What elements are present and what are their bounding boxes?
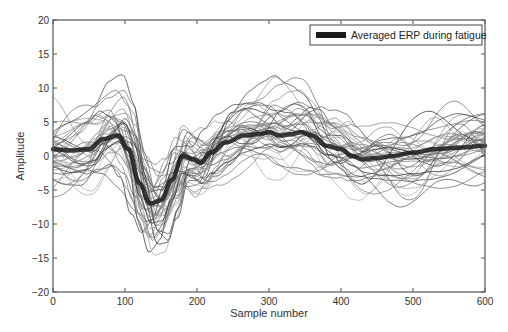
x-tick-label: 500 — [405, 296, 422, 307]
y-tick-label: 10 — [38, 83, 50, 94]
x-axis-label: Sample number — [230, 307, 308, 319]
x-tick-label: 200 — [189, 296, 206, 307]
y-tick-label: 0 — [43, 151, 49, 162]
legend-swatch — [316, 32, 346, 38]
y-tick-label: −15 — [32, 253, 49, 264]
y-tick-label: 5 — [43, 117, 49, 128]
x-tick-label: 400 — [333, 296, 350, 307]
y-tick-label: −5 — [38, 185, 50, 196]
legend: Averaged ERP during fatigue — [310, 25, 487, 45]
legend-label: Averaged ERP during fatigue — [351, 29, 487, 41]
trial-trace — [53, 134, 485, 229]
x-tick-label: 100 — [117, 296, 134, 307]
x-tick-label: 0 — [50, 296, 56, 307]
erp-chart: 0100200300400500600 −20−15−10−505101520 … — [0, 0, 508, 332]
x-tick-label: 600 — [477, 296, 494, 307]
y-tick-label: 15 — [38, 49, 50, 60]
y-tick-label: −20 — [32, 287, 49, 298]
y-tick-label: −10 — [32, 219, 49, 230]
individual-trial-traces — [53, 75, 485, 255]
y-axis-label: Amplitude — [14, 132, 26, 181]
x-tick-label: 300 — [261, 296, 278, 307]
y-tick-label: 20 — [38, 15, 50, 26]
